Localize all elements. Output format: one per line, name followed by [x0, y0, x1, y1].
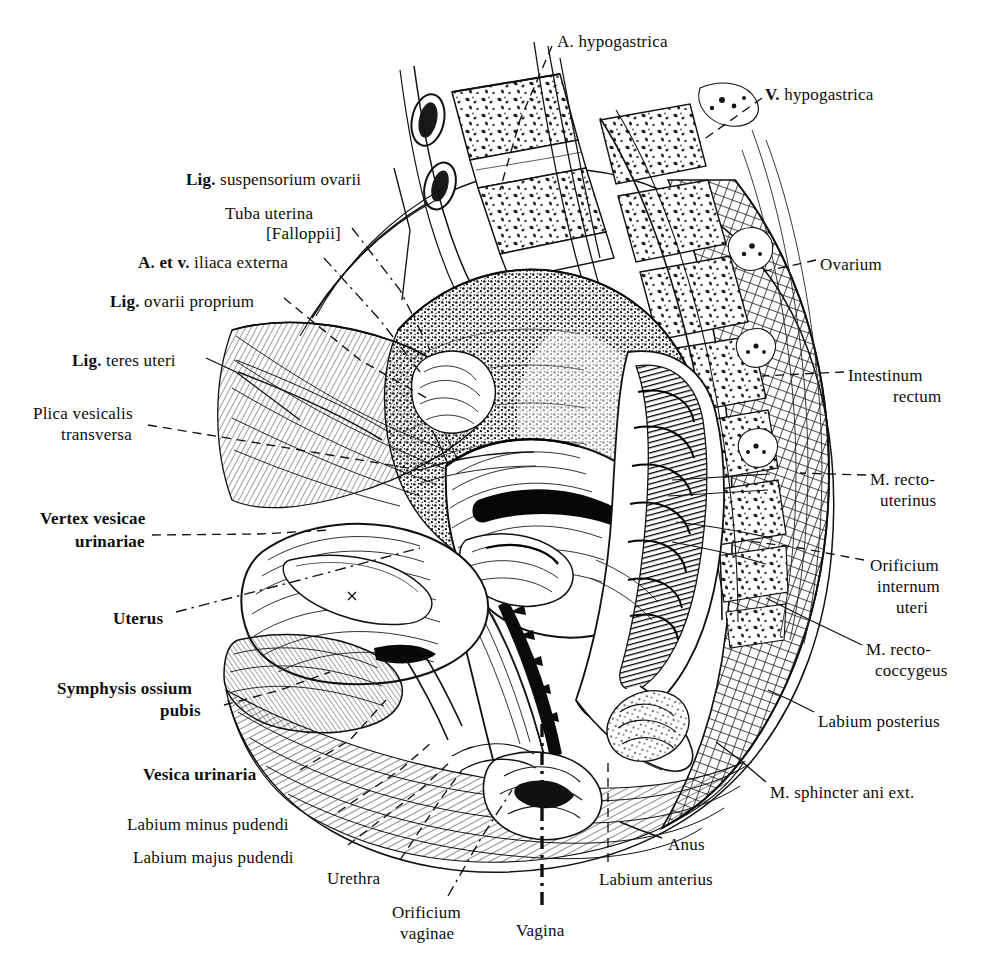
label-vagina: Vagina: [516, 921, 564, 941]
illustration-body: [218, 42, 834, 872]
label-labium-posterius: Labium posterius: [818, 712, 940, 732]
label-m-recto-coccygeus1: M. recto-: [866, 640, 931, 660]
label-intestinum-rectum2: rectum: [893, 387, 941, 407]
label-symphysis-ossium: Symphysis ossium: [57, 679, 192, 699]
label-labium-majus: Labium majus pudendi: [133, 848, 294, 868]
label-m-recto-coccygeus2: coccygeus: [875, 661, 948, 681]
label-orificium-vaginae2: vaginae: [400, 924, 454, 944]
label-labium-anterius: Labium anterius: [599, 870, 713, 890]
label-symphysis-pubis: pubis: [160, 701, 201, 721]
label-plica-vesicalis: Plica vesicalis: [33, 404, 133, 424]
label-intestinum-rectum1: Intestinum: [848, 366, 923, 386]
label-m-sphincter-ani: M. sphincter ani ext.: [770, 783, 914, 803]
label-urethra: Urethra: [327, 869, 380, 889]
label-orificium-internum2: internum: [877, 577, 940, 597]
label-uterus: Uterus: [113, 609, 163, 629]
label-tuba-uterina: Tuba uterina: [225, 204, 313, 224]
label-plica-transversa: transversa: [61, 425, 132, 445]
label-orificium-internum3: uteri: [896, 598, 928, 618]
label-v-hypogastrica: V. hypogastrica: [765, 85, 873, 105]
label-a-et-v-iliaca: A. et v. iliaca externa: [138, 253, 288, 273]
label-lig-teres-uteri: Lig. teres uteri: [72, 351, 176, 371]
label-labium-minus: Labium minus pudendi: [127, 815, 289, 835]
label-vertex-vesicae: Vertex vesicae: [40, 509, 146, 529]
label-falloppii: [Falloppii]: [266, 224, 341, 244]
label-lig-ovarii-proprium: Lig. ovarii proprium: [110, 292, 254, 312]
label-orificium-vaginae1: Orificium: [392, 903, 461, 923]
label-vesica-urinaria: Vesica urinaria: [143, 765, 256, 785]
leader-lig-susp-ovarii: [394, 168, 410, 300]
label-a-hypogastrica: A. hypogastrica: [557, 32, 668, 52]
label-orificium-internum1: Orificium: [870, 556, 939, 576]
label-m-recto-uterinus2: uterinus: [880, 491, 936, 511]
label-anus: Anus: [668, 835, 705, 855]
label-ovarium: Ovarium: [820, 255, 882, 275]
label-m-recto-uterinus1: M. recto-: [870, 470, 935, 490]
label-lig-susp-ovarii: Lig. suspensorium ovarii: [186, 170, 361, 190]
label-vesicae-urinariae: urinariae: [75, 532, 145, 552]
